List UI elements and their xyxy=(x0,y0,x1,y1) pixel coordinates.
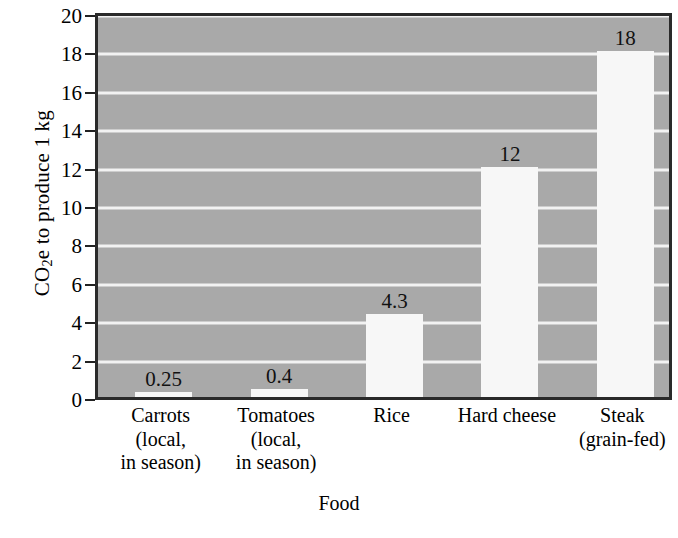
y-tick-mark xyxy=(85,322,95,324)
y-tick-mark xyxy=(85,92,95,94)
y-tick-label: 20 xyxy=(22,6,82,27)
x-tick-label-line: Tomatoes xyxy=(236,404,317,428)
bar-value-label: 18 xyxy=(615,28,636,49)
y-tick-label: 0 xyxy=(22,390,82,411)
x-tick-label-line: in season) xyxy=(120,451,201,475)
y-tick-label: 12 xyxy=(22,159,82,180)
y-tick-mark xyxy=(85,15,95,17)
y-tick-mark xyxy=(85,207,95,209)
bar-chart: CO2e to produce 1 kg 02468101214161820 0… xyxy=(0,0,678,538)
gridline xyxy=(98,15,669,18)
bar-value-label: 12 xyxy=(499,144,520,165)
y-tick-mark xyxy=(85,245,95,247)
gridline xyxy=(98,168,669,171)
bar-value-label: 4.3 xyxy=(381,291,407,312)
y-tick-label: 16 xyxy=(22,82,82,103)
x-axis-title: Food xyxy=(0,492,678,515)
y-tick-label: 2 xyxy=(22,351,82,372)
gridline xyxy=(98,130,669,133)
y-tick-label: 14 xyxy=(22,121,82,142)
bar-value-label: 0.25 xyxy=(145,369,182,390)
x-tick-label-line: Hard cheese xyxy=(458,404,556,428)
x-tick-label-line: (local, xyxy=(120,428,201,452)
bar xyxy=(251,389,308,397)
x-tick-label-line: in season) xyxy=(236,451,317,475)
y-tick-label: 4 xyxy=(22,313,82,334)
y-axis-ticks: 02468101214161820 xyxy=(0,0,95,538)
y-tick-mark xyxy=(85,284,95,286)
y-tick-label: 18 xyxy=(22,44,82,65)
y-tick-mark xyxy=(85,361,95,363)
x-tick-label-line: (local, xyxy=(236,428,317,452)
x-tick-label-line: Carrots xyxy=(120,404,201,428)
bar-value-label: 0.4 xyxy=(266,366,292,387)
gridline xyxy=(98,53,669,56)
plot-inner: 0.250.44.31218 xyxy=(98,16,669,397)
bar xyxy=(366,314,423,397)
y-tick-mark xyxy=(85,53,95,55)
x-tick-label: Tomatoes(local,in season) xyxy=(236,404,317,475)
gridline xyxy=(98,207,669,210)
y-tick-mark xyxy=(85,399,95,401)
y-tick-mark xyxy=(85,169,95,171)
x-tick-label-line: Rice xyxy=(373,404,410,428)
x-axis-tick-labels: Carrots(local,in season)Tomatoes(local,i… xyxy=(95,404,672,484)
gridline xyxy=(98,91,669,94)
x-tick-label: Carrots(local,in season) xyxy=(120,404,201,475)
plot-area: 0.250.44.31218 xyxy=(95,13,672,400)
bar xyxy=(481,167,538,397)
x-tick-label-line: Steak xyxy=(579,404,666,428)
gridline xyxy=(98,245,669,248)
x-tick-label: Rice xyxy=(373,404,410,428)
x-tick-label-line: (grain-fed) xyxy=(579,428,666,452)
y-tick-label: 8 xyxy=(22,236,82,257)
y-tick-label: 10 xyxy=(22,198,82,219)
y-tick-label: 6 xyxy=(22,274,82,295)
bar xyxy=(135,392,192,397)
y-tick-mark xyxy=(85,130,95,132)
x-tick-label: Hard cheese xyxy=(458,404,556,428)
gridline xyxy=(98,283,669,286)
bar xyxy=(597,51,654,397)
x-tick-label: Steak(grain-fed) xyxy=(579,404,666,451)
